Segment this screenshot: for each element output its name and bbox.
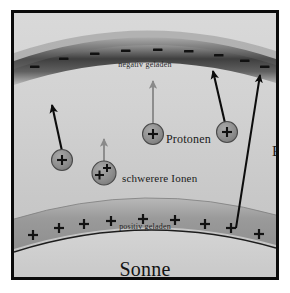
label-sonne: Sonne (120, 258, 171, 280)
minus-sign (184, 50, 194, 53)
minus-sign (214, 54, 224, 57)
label-protonen: Protonen (166, 132, 211, 147)
minus-sign (59, 58, 69, 61)
label-positiv-geladen: positiv geladen (119, 222, 171, 231)
minus-sign (260, 66, 270, 69)
minus-sign (153, 49, 163, 52)
label-electric-field: E (272, 143, 279, 160)
particle-proton-mid (143, 124, 164, 145)
figure-root: negativ geladen positiv geladen Sonne Pr… (0, 0, 290, 293)
diagram-frame: negativ geladen positiv geladen Sonne Pr… (11, 10, 279, 280)
minus-sign (240, 60, 250, 63)
particle-proton-left (52, 150, 73, 171)
label-negativ-geladen: negativ geladen (118, 60, 171, 69)
label-schwerere-ionen: schwerere Ionen (122, 172, 197, 184)
minus-sign (90, 53, 100, 56)
minus-sign (30, 66, 40, 69)
diagram-canvas (14, 13, 276, 277)
minus-sign (121, 50, 131, 53)
particle-heavy-ion (92, 161, 116, 185)
particle-proton-right (217, 122, 238, 143)
